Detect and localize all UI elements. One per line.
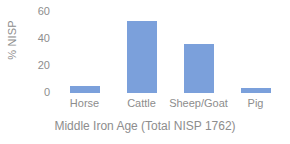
x-axis-title: Middle Iron Age (Total NISP 1762) [0, 119, 290, 133]
bar-slot [227, 12, 284, 93]
bar[interactable] [127, 21, 157, 93]
y-axis-tick-60: 60 [26, 6, 50, 17]
bar-chart: % NISP 6040200 HorseCattleSheep/GoatPig … [0, 0, 290, 144]
x-axis-category-labels: HorseCattleSheep/GoatPig [56, 96, 284, 112]
x-axis-label-cattle: Cattle [127, 96, 156, 110]
plot-area [56, 12, 284, 93]
x-axis-label-sheep-goat: Sheep/Goat [169, 96, 228, 110]
bar[interactable] [184, 44, 214, 93]
bar-slot [56, 12, 113, 93]
y-axis-tick-20: 20 [26, 60, 50, 71]
x-axis-label-pig: Pig [248, 96, 264, 110]
bar-slot [170, 12, 227, 93]
bar[interactable] [70, 86, 100, 93]
y-axis-tick-40: 40 [26, 33, 50, 44]
bar-slot [113, 12, 170, 93]
y-axis-title: % NISP [6, 10, 18, 70]
x-axis-label-horse: Horse [70, 96, 99, 110]
bar[interactable] [241, 88, 271, 93]
y-axis-tick-0: 0 [26, 87, 50, 98]
